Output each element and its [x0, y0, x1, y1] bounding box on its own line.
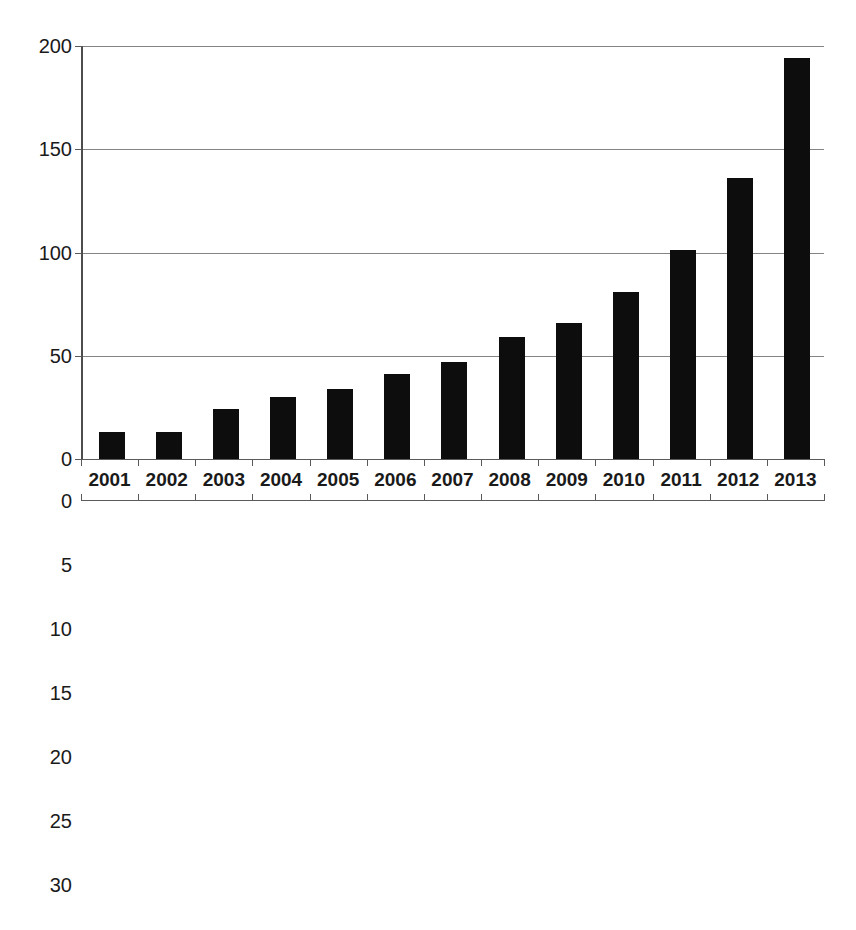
top-bar-2007 [441, 362, 467, 459]
table-row [140, 46, 197, 459]
x-tick-mark-upper [653, 459, 654, 466]
top-y-tick-label: 100 [39, 243, 72, 263]
top-bar-series [83, 46, 824, 459]
x-tick-mark-upper [195, 459, 196, 466]
table-row [426, 46, 483, 459]
bottom-y-tick-label: 5 [61, 555, 72, 575]
top-y-tick-mark [75, 253, 82, 254]
table-row [655, 46, 712, 459]
top-bar-2008 [499, 337, 525, 459]
x-tick-mark-upper [367, 459, 368, 466]
x-tick-mark-upper [710, 459, 711, 466]
x-axis-line-upper [81, 459, 824, 460]
table-row [312, 46, 369, 459]
bottom-y-tick-label: 10 [50, 619, 72, 639]
top-bar-2009 [556, 323, 582, 459]
bottom-y-tick-label: 15 [50, 683, 72, 703]
top-bar-2002 [156, 432, 182, 459]
x-tick-mark-upper [252, 459, 253, 466]
bottom-y-tick-label: 25 [50, 811, 72, 831]
top-bar-2013 [784, 58, 810, 459]
top-bar-2012 [727, 178, 753, 459]
table-row [540, 46, 597, 459]
top-plot-area [81, 46, 824, 459]
top-bar-2003 [213, 409, 239, 459]
bottom-y-tick-label: 20 [50, 747, 72, 767]
top-bar-2010 [613, 292, 639, 459]
x-tick-mark-upper [481, 459, 482, 466]
table-row [369, 46, 426, 459]
table-row [254, 46, 311, 459]
table-row [483, 46, 540, 459]
top-y-tick-mark [75, 46, 82, 47]
x-tick-mark-upper [138, 459, 139, 466]
top-y-tick-mark [75, 356, 82, 357]
bottom-y-tick-label: 0 [61, 491, 72, 511]
top-bar-2004 [270, 397, 296, 459]
x-tick-mark-upper [538, 459, 539, 466]
top-y-tick-label: 150 [39, 139, 72, 159]
table-row [769, 46, 826, 459]
x-tick-mark-upper [424, 459, 425, 466]
bottom-chart-panel: 051015202530 [0, 478, 856, 930]
top-y-tick-label: 200 [39, 36, 72, 56]
table-row [197, 46, 254, 459]
table-row [597, 46, 654, 459]
x-tick-mark-upper [81, 459, 82, 466]
x-tick-mark-upper [824, 459, 825, 466]
top-bar-2001 [99, 432, 125, 459]
x-tick-mark-upper [310, 459, 311, 466]
dual-bar-chart-figure: 050100150200 200120022003200420052006200… [0, 0, 856, 930]
top-bar-2011 [670, 250, 696, 459]
top-y-tick-label: 0 [61, 449, 72, 469]
top-y-tick-label: 50 [50, 346, 72, 366]
table-row [712, 46, 769, 459]
bottom-y-tick-label: 30 [50, 875, 72, 895]
top-y-tick-mark [75, 149, 82, 150]
top-bar-2005 [327, 389, 353, 459]
x-tick-mark-upper [595, 459, 596, 466]
top-chart-panel: 050100150200 [0, 0, 856, 478]
table-row [83, 46, 140, 459]
top-bar-2006 [384, 374, 410, 459]
x-tick-mark-upper [767, 459, 768, 466]
